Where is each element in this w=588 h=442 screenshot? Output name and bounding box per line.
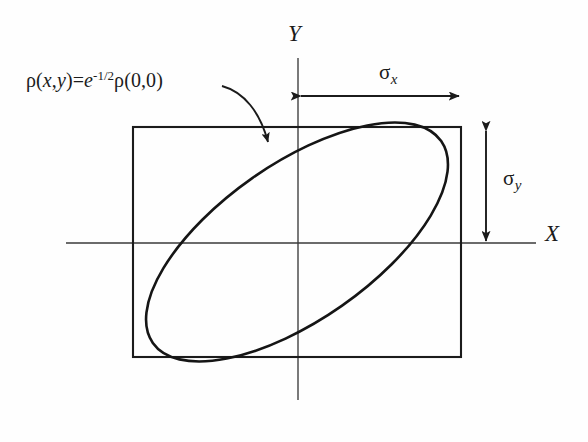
sigma-y-label: σy [503, 168, 522, 193]
equation-close-paren: ) [66, 69, 73, 91]
equation-var-x: x [43, 69, 52, 91]
sigma-x-symbol: σ [379, 60, 390, 84]
density-equation-label: ρ(x,y)=e-1/2ρ(0,0) [26, 69, 163, 90]
equation-exponent: -1/2 [93, 68, 114, 83]
equation-equals-sign: = [73, 69, 84, 91]
coordinate-axes [66, 58, 536, 400]
equation-rho-symbol: ρ [26, 69, 36, 91]
equation-zero-args: (0,0) [124, 69, 163, 91]
figure-canvas: Y X σx σy ρ(x,y)=e-1/2ρ(0,0) [0, 0, 588, 442]
equation-open-paren: ( [36, 69, 43, 91]
sigma-x-subscript: x [391, 71, 398, 87]
equation-rho-second: ρ [114, 69, 124, 91]
diagram-svg [0, 0, 588, 442]
sigma-x-label: σx [379, 62, 398, 87]
y-axis-label: Y [288, 22, 301, 45]
equation-base-e: e [84, 69, 93, 91]
sigma-y-subscript: y [515, 177, 522, 193]
equation-exponent-value: 1/2 [97, 68, 114, 83]
x-axis-label: X [545, 222, 559, 245]
equation-callout-arrow [222, 86, 268, 142]
equation-var-y: y [57, 69, 66, 91]
sigma-y-symbol: σ [503, 166, 514, 190]
